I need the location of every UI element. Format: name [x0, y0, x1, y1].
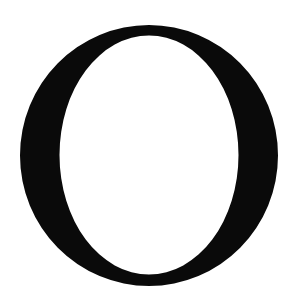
letter-o-glyph: O	[0, 0, 297, 306]
letter-o-icon	[0, 0, 297, 306]
